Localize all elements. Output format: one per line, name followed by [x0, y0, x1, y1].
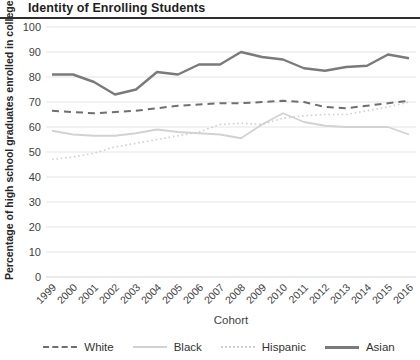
svg-text:2001: 2001 — [75, 281, 100, 306]
legend-item-white: White — [43, 341, 113, 353]
svg-text:2005: 2005 — [159, 281, 184, 306]
svg-text:2016: 2016 — [390, 281, 415, 306]
svg-text:2009: 2009 — [243, 281, 268, 306]
svg-text:2002: 2002 — [96, 281, 121, 306]
svg-text:70: 70 — [29, 96, 41, 108]
legend-label-white: White — [84, 341, 113, 353]
svg-text:2010: 2010 — [264, 281, 289, 306]
x-axis-title: Cohort — [131, 314, 331, 326]
legend-label-hispanic: Hispanic — [262, 341, 306, 353]
chart-figure: Identity of Enrolling Students Percentag… — [0, 0, 420, 360]
svg-text:2003: 2003 — [117, 281, 142, 306]
svg-text:2006: 2006 — [180, 281, 205, 306]
legend-item-black: Black — [133, 341, 202, 353]
svg-text:50: 50 — [29, 146, 41, 158]
svg-text:2015: 2015 — [369, 281, 394, 306]
svg-text:100: 100 — [23, 21, 41, 33]
svg-text:20: 20 — [29, 221, 41, 233]
series-line-hispanic — [52, 102, 409, 160]
solid-line-swatch-icon — [133, 346, 167, 348]
svg-text:2011: 2011 — [286, 281, 311, 306]
svg-text:2004: 2004 — [138, 281, 163, 306]
svg-text:2000: 2000 — [54, 281, 79, 306]
svg-text:90: 90 — [29, 46, 41, 58]
svg-text:0: 0 — [35, 271, 41, 283]
dashed-line-swatch-icon — [43, 346, 77, 348]
series-line-asian — [52, 52, 409, 95]
series-line-white — [52, 101, 409, 114]
svg-text:80: 80 — [29, 71, 41, 83]
svg-text:30: 30 — [29, 196, 41, 208]
line-chart-plot-area: 1009080706050403020100199920002001200220… — [0, 0, 420, 336]
svg-text:10: 10 — [29, 246, 41, 258]
chart-legend: White Black Hispanic Asian — [0, 341, 420, 353]
legend-item-asian: Asian — [325, 341, 395, 353]
legend-label-asian: Asian — [366, 341, 395, 353]
legend-item-hispanic: Hispanic — [221, 341, 306, 353]
svg-text:2007: 2007 — [201, 281, 226, 306]
svg-text:1999: 1999 — [33, 281, 58, 306]
legend-label-black: Black — [174, 341, 202, 353]
series-line-black — [52, 113, 409, 138]
bold-line-swatch-icon — [325, 346, 359, 349]
svg-text:60: 60 — [29, 121, 41, 133]
svg-text:2014: 2014 — [348, 281, 373, 306]
svg-text:2008: 2008 — [222, 281, 247, 306]
svg-text:2012: 2012 — [306, 281, 331, 306]
svg-text:40: 40 — [29, 171, 41, 183]
dotted-line-swatch-icon — [221, 346, 255, 348]
svg-text:2013: 2013 — [327, 281, 352, 306]
